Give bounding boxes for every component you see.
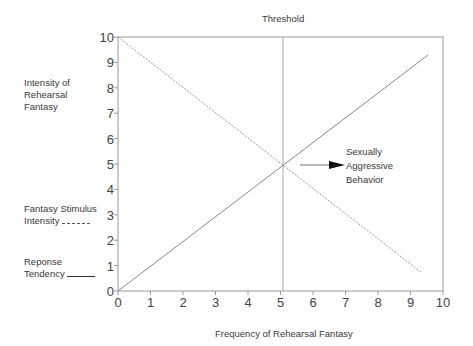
y-tick-label: 4 bbox=[107, 182, 114, 197]
legend-solid-swatch bbox=[67, 276, 95, 277]
y-axis-label-line2: Rehearsal bbox=[24, 89, 67, 101]
plot-frame bbox=[118, 37, 443, 291]
x-tick-label: 10 bbox=[436, 295, 450, 310]
response-tendency-line bbox=[118, 55, 428, 291]
x-tick-label: 8 bbox=[374, 295, 381, 310]
annotation-line1: Sexually bbox=[346, 146, 382, 158]
legend-dashed-swatch bbox=[62, 223, 90, 224]
y-tick-label: 2 bbox=[107, 233, 114, 248]
y-axis-label-line3: Fantasy bbox=[24, 101, 58, 113]
y-tick-label: 6 bbox=[107, 132, 114, 147]
chart-title: Threshold bbox=[262, 13, 304, 25]
y-tick-label: 1 bbox=[107, 259, 114, 274]
x-tick-label: 0 bbox=[114, 295, 121, 310]
chart-canvas: 012345678910012345678910 bbox=[0, 0, 473, 346]
x-tick-label: 2 bbox=[179, 295, 186, 310]
y-tick-label: 7 bbox=[107, 106, 114, 121]
legend-dashed-line1: Fantasy Stimulus bbox=[24, 203, 97, 215]
y-tick-label: 10 bbox=[100, 30, 114, 45]
legend-solid-line1: Reponse bbox=[24, 256, 62, 268]
x-tick-label: 6 bbox=[309, 295, 316, 310]
annotation-line3: Behavior bbox=[346, 174, 384, 186]
x-tick-label: 7 bbox=[342, 295, 349, 310]
axis-ticks: 012345678910012345678910 bbox=[100, 30, 451, 310]
x-tick-label: 5 bbox=[277, 295, 284, 310]
y-tick-label: 3 bbox=[107, 208, 114, 223]
x-axis-label: Frequency of Rehearsal Fantasy bbox=[215, 328, 353, 340]
annotation-line2: Aggressive bbox=[346, 160, 393, 172]
x-tick-label: 4 bbox=[244, 295, 251, 310]
x-tick-label: 1 bbox=[147, 295, 154, 310]
legend-dashed-line2: Intensity bbox=[24, 215, 90, 227]
y-tick-label: 9 bbox=[107, 55, 114, 70]
x-tick-label: 3 bbox=[212, 295, 219, 310]
y-tick-label: 5 bbox=[107, 157, 114, 172]
x-tick-label: 9 bbox=[407, 295, 414, 310]
arrow-head-icon bbox=[329, 161, 345, 169]
legend-solid-line2: Tendency bbox=[24, 268, 95, 280]
y-tick-label: 8 bbox=[107, 81, 114, 96]
y-tick-label: 0 bbox=[107, 284, 114, 299]
y-axis-label-line1: Intensity of bbox=[24, 77, 70, 89]
